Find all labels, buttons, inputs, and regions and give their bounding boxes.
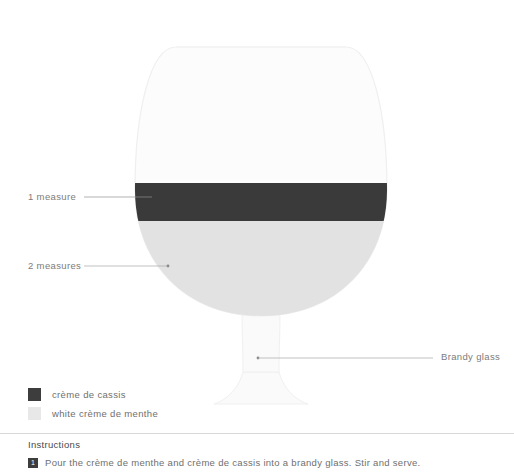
legend-item-creme-de-cassis: crème de cassis [28,386,158,403]
cocktail-diagram: 1 measure 2 measures Brandy glass crème … [0,0,514,430]
liquid-layers [120,183,400,320]
legend: crème de cassis white crème de menthe [28,386,158,424]
callout-label-two-measures: 2 measures [28,261,81,271]
instruction-step-1: 1 Pour the crème de menthe and crème de … [28,458,420,468]
step-text: Pour the crème de menthe and crème de ca… [45,458,420,468]
instructions-divider [0,433,514,434]
layer-creme-de-cassis [120,183,400,221]
legend-label-white-creme-de-menthe: white crème de menthe [52,409,158,419]
glass-foot [214,372,308,404]
callout-label-one-measure: 1 measure [28,192,76,202]
instructions-heading: Instructions [28,440,80,450]
legend-label-creme-de-cassis: crème de cassis [52,390,126,400]
legend-item-white-creme-de-menthe: white crème de menthe [28,405,158,422]
legend-swatch-creme-de-cassis [28,388,41,401]
step-number-marker: 1 [28,458,38,468]
callout-label-brandy-glass: Brandy glass [441,352,500,362]
layer-white-creme-de-menthe [120,220,400,320]
legend-swatch-white-creme-de-menthe [28,407,41,420]
leader-dot-two-measures [167,265,170,268]
brandy-glass-illustration [0,0,514,430]
